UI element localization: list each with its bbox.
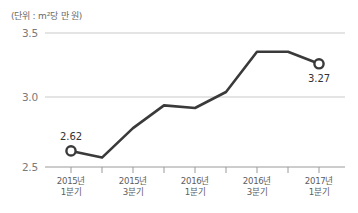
x-tick-line2: 1분기 xyxy=(40,187,102,198)
x-tick-line1: 2017년 xyxy=(288,176,350,187)
value-label-last: 3.27 xyxy=(299,73,339,84)
quarterly-price-line-chart: (단위 : m²당 만 원) 3.5 3.0 2.5 2.62 3.27 201… xyxy=(0,0,358,213)
x-axis-tick-label-2015q1: 2015년 1분기 xyxy=(40,176,102,198)
x-axis-tick-label-2016q3: 2016년 3분기 xyxy=(226,176,288,198)
x-tick-line2: 1분기 xyxy=(164,187,226,198)
data-point-marker-last xyxy=(314,59,323,68)
x-tick-line2: 1분기 xyxy=(288,187,350,198)
x-tick-line1: 2015년 xyxy=(40,176,102,187)
data-point-marker-first xyxy=(66,146,75,155)
x-axis-tick-marks xyxy=(71,167,319,173)
x-axis-tick-label-2017q1: 2017년 1분기 xyxy=(288,176,350,198)
x-tick-line2: 3분기 xyxy=(226,187,288,198)
x-tick-line2: 3분기 xyxy=(102,187,164,198)
x-tick-line1: 2015년 xyxy=(102,176,164,187)
x-tick-line1: 2016년 xyxy=(226,176,288,187)
x-axis-tick-label-2015q3: 2015년 3분기 xyxy=(102,176,164,198)
value-label-first: 2.62 xyxy=(51,131,91,142)
x-axis-tick-label-2016q1: 2016년 1분기 xyxy=(164,176,226,198)
series-line-apartment-price xyxy=(71,52,319,158)
x-tick-line1: 2016년 xyxy=(164,176,226,187)
